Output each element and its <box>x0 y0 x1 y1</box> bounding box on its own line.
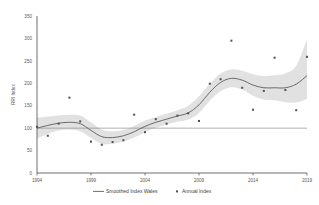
legend-marker-swatch <box>176 190 178 192</box>
data-point <box>263 90 265 92</box>
data-point <box>58 123 60 125</box>
y-tick-label: 200 <box>24 81 32 86</box>
legend-label-annual-index: Annual Index <box>182 188 212 194</box>
x-tick-label: 2004 <box>140 178 151 183</box>
data-point <box>133 114 135 116</box>
data-point <box>90 141 92 143</box>
y-tick-label: 50 <box>27 148 33 153</box>
y-axis-title: RRI Index <box>11 84 16 105</box>
data-point <box>47 135 49 137</box>
y-tick-label: 150 <box>24 103 32 108</box>
x-tick-label: 1999 <box>86 178 97 183</box>
chart-canvas: 050100150200250300350 199419992004200920… <box>0 0 319 205</box>
y-tick-label: 300 <box>24 36 32 41</box>
data-point <box>295 109 297 111</box>
data-point <box>122 139 124 141</box>
data-point <box>230 40 232 42</box>
data-point <box>220 78 222 80</box>
y-tick-label: 250 <box>24 59 32 64</box>
data-point <box>166 123 168 125</box>
data-point <box>284 89 286 91</box>
data-point <box>252 109 254 111</box>
y-axis-title-label: RRI Index <box>11 84 16 105</box>
data-point <box>198 120 200 122</box>
data-point <box>306 56 308 58</box>
data-point <box>187 112 189 114</box>
confidence-band <box>37 39 307 144</box>
data-point <box>144 131 146 133</box>
data-point <box>68 97 70 99</box>
y-tick-label: 0 <box>29 171 32 176</box>
legend-label-smoothed-index-wales: Smoothed Index Wales <box>106 188 158 194</box>
chart-legend: Smoothed Index WalesAnnual Index <box>93 188 212 194</box>
y-axis-tick-labels: 050100150200250300350 <box>24 14 32 176</box>
data-point <box>112 141 114 143</box>
x-tick-label: 2009 <box>194 178 205 183</box>
x-tick-label: 2019 <box>302 178 313 183</box>
rri-index-chart: 050100150200250300350 199419992004200920… <box>0 0 319 205</box>
y-tick-label: 350 <box>24 14 32 19</box>
x-axis-tick-labels: 199419992004200920142019 <box>32 173 313 183</box>
x-tick-label: 2014 <box>248 178 259 183</box>
data-point <box>155 118 157 120</box>
data-point <box>241 87 243 89</box>
y-tick-label: 100 <box>24 126 32 131</box>
data-point <box>274 57 276 59</box>
data-point <box>176 115 178 117</box>
data-point <box>209 83 211 85</box>
x-tick-label: 1994 <box>32 178 43 183</box>
data-point <box>79 120 81 122</box>
data-point <box>101 144 103 146</box>
